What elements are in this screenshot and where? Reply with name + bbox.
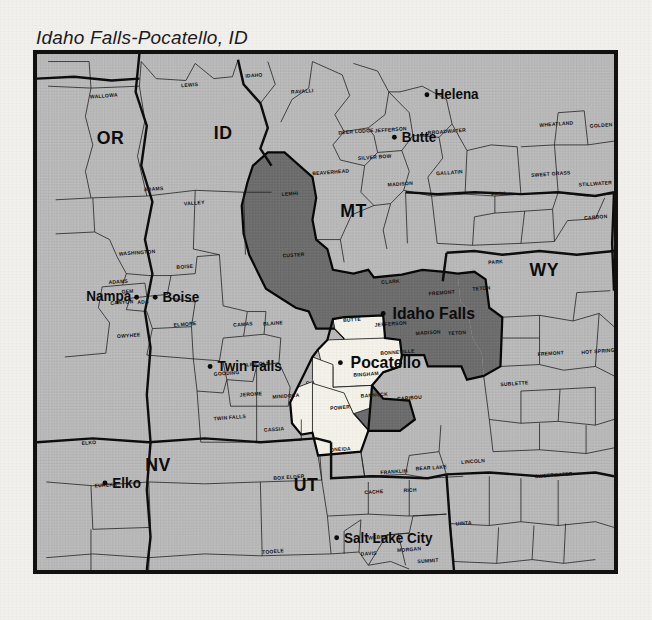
county-label: TETON: [472, 284, 491, 291]
city-marker[interactable]: Idaho Falls: [381, 305, 475, 322]
county-label: DAVIS: [361, 550, 378, 557]
county-label: LEWIS: [181, 81, 199, 88]
city-label: Helena: [434, 87, 479, 102]
dma-coverage-map[interactable]: WALLOWALEWISIDAHORAVALLIDEER LODGEJEFFER…: [37, 54, 614, 570]
city-label: Salt Lake City: [344, 530, 433, 545]
state-label-mt: MT: [340, 201, 366, 221]
city-dot-icon: [392, 135, 397, 140]
city-label: Elko: [112, 476, 141, 491]
state-label-wy: WY: [529, 260, 558, 280]
city-dot-icon: [208, 364, 213, 369]
city-dot-icon: [153, 295, 158, 300]
county-label: PARK: [491, 190, 506, 197]
city-label: Idaho Falls: [393, 305, 476, 322]
city-marker[interactable]: Salt Lake City: [334, 530, 433, 545]
state-label-ut: UT: [294, 475, 319, 495]
city-label: Boise: [163, 290, 200, 305]
city-label: Nampa: [86, 289, 131, 304]
county-label: UINTA: [455, 519, 472, 526]
state-label-or: OR: [97, 128, 124, 148]
city-dot-icon: [338, 360, 343, 365]
city-dot-icon: [381, 311, 386, 316]
city-dot-icon: [103, 480, 108, 485]
page-title: Idaho Falls-Pocatello, ID: [36, 27, 248, 49]
county-label: ADA: [137, 298, 149, 305]
city-label: Twin Falls: [218, 359, 283, 374]
city-dot-icon: [425, 92, 430, 97]
county-label: BOISE: [176, 263, 194, 270]
map-frame[interactable]: WALLOWALEWISIDAHORAVALLIDEER LODGEJEFFER…: [33, 50, 618, 574]
city-marker[interactable]: Nampa: [86, 289, 139, 304]
city-dot-icon: [134, 295, 139, 300]
city-marker[interactable]: Pocatello: [338, 354, 421, 371]
county-label: LEMHI: [281, 190, 298, 197]
county-label: PARK: [488, 258, 503, 265]
county-label: BUTTE: [343, 316, 362, 323]
county-label: ELKO: [81, 439, 96, 446]
city-marker[interactable]: Twin Falls: [208, 359, 283, 374]
county-label: RICH: [403, 486, 417, 493]
city-label: Butte: [402, 130, 437, 145]
county-label: IDAHO: [245, 71, 263, 78]
state-label-id: ID: [214, 123, 233, 143]
county-label: TETON: [448, 329, 467, 336]
city-label: Pocatello: [351, 354, 422, 371]
state-label-nv: NV: [145, 454, 170, 474]
city-dot-icon: [334, 535, 339, 540]
